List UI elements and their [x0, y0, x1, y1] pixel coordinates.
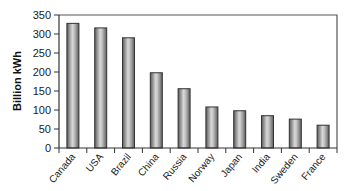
- x-tick-label: Russia: [161, 151, 189, 182]
- bar-brazil: [123, 38, 135, 148]
- x-tick-label: Brazil: [109, 151, 134, 177]
- bars: [67, 23, 329, 148]
- bar-india: [262, 116, 274, 148]
- bar-china: [150, 73, 162, 148]
- y-tick-label: 150: [33, 85, 51, 97]
- x-tick-label: Canada: [46, 151, 77, 185]
- bar-chart: 050100150200250300350 CanadaUSABrazilChi…: [0, 0, 345, 191]
- bar-russia: [178, 89, 190, 148]
- x-tick-label: Norway: [186, 151, 216, 184]
- bar-france: [317, 125, 329, 148]
- y-tick-label: 200: [33, 66, 51, 78]
- x-tick-label: USA: [84, 151, 106, 174]
- y-axis-label: Billion kWh: [11, 51, 23, 111]
- x-tick-label: France: [299, 151, 328, 182]
- y-tick-label: 100: [33, 104, 51, 116]
- y-axis: 050100150200250300350: [33, 9, 59, 154]
- bar-canada: [67, 23, 79, 148]
- y-tick-label: 0: [45, 142, 51, 154]
- bar-sweden: [289, 119, 301, 148]
- y-tick-label: 250: [33, 47, 51, 59]
- x-tick-label: China: [136, 151, 162, 178]
- x-axis: CanadaUSABrazilChinaRussiaNorwayJapanInd…: [46, 148, 337, 186]
- y-tick-label: 50: [39, 123, 51, 135]
- bar-norway: [206, 107, 218, 148]
- bar-usa: [95, 28, 107, 148]
- x-tick-label: India: [250, 151, 273, 175]
- y-tick-label: 300: [33, 28, 51, 40]
- bar-japan: [234, 111, 246, 148]
- x-tick-label: Sweden: [268, 151, 300, 186]
- x-tick-label: Japan: [218, 151, 244, 179]
- y-tick-label: 350: [33, 9, 51, 21]
